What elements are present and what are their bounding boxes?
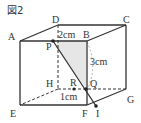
label-D: D: [52, 14, 59, 25]
cube-diagram: 図2 A D B C H G E F P Q R I 2cm 3cm 1cm: [0, 0, 141, 123]
label-Q: Q: [90, 78, 98, 89]
figure-title: 図2: [7, 5, 23, 16]
measure-1cm: 1cm: [60, 91, 77, 102]
measure-3cm: 3cm: [90, 56, 107, 67]
edge-BC: [87, 25, 126, 41]
label-R: R: [70, 77, 77, 88]
label-G: G: [127, 94, 134, 105]
edge-AD: [20, 25, 58, 41]
label-H: H: [46, 78, 53, 89]
label-P: P: [46, 41, 52, 52]
edge-FG: [87, 89, 126, 105]
label-C: C: [123, 14, 130, 25]
label-B: B: [83, 29, 90, 40]
edge-HE: [20, 89, 58, 105]
label-F: F: [82, 108, 88, 119]
measure-2cm: 2cm: [58, 29, 75, 40]
label-I: I: [96, 108, 99, 119]
label-E: E: [10, 108, 16, 119]
label-A: A: [8, 31, 16, 42]
point-P-dot: [51, 39, 55, 43]
point-Q-dot: [84, 87, 88, 91]
